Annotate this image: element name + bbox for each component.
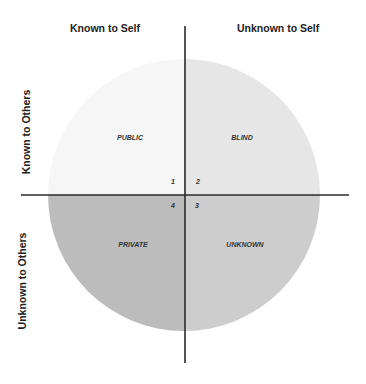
quadrant-circle <box>0 0 366 384</box>
quadrant-number-1: 1 <box>171 178 175 185</box>
quadrant-label-public: PUBLIC <box>117 134 143 141</box>
row-header-unknown-to-others: Unknown to Others <box>16 226 28 336</box>
johari-window-diagram: Known to Self Unknown to Self Known to O… <box>0 0 366 384</box>
quadrant-blind-area <box>184 59 320 195</box>
column-header-unknown-to-self: Unknown to Self <box>237 22 319 34</box>
column-header-known-to-self: Known to Self <box>70 22 140 34</box>
quadrant-label-unknown: UNKNOWN <box>226 241 263 248</box>
quadrant-private-area <box>48 195 184 331</box>
row-header-known-to-others: Known to Others <box>20 82 32 182</box>
quadrant-unknown-area <box>184 195 320 331</box>
quadrant-public-area <box>48 59 184 195</box>
quadrant-number-4: 4 <box>171 202 175 209</box>
quadrant-label-blind: BLIND <box>231 134 252 141</box>
quadrant-number-2: 2 <box>196 178 200 185</box>
quadrant-label-private: PRIVATE <box>118 241 147 248</box>
quadrant-number-3: 3 <box>195 202 199 209</box>
